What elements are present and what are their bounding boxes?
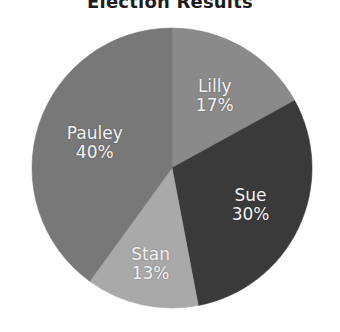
slice-label-stan: Stan 13% [91,245,211,283]
slice-label-sue: Sue 30% [191,186,311,224]
slice-label-name-stan: Stan [91,245,211,264]
slice-label-value-lilly: 17% [155,96,275,115]
slice-label-name-lilly: Lilly [155,77,275,96]
slice-label-name-sue: Sue [191,186,311,205]
slice-label-pauley: Pauley 40% [35,124,155,162]
slice-label-value-sue: 30% [191,205,311,224]
slice-label-value-stan: 13% [91,264,211,283]
slice-label-lilly: Lilly 17% [155,77,275,115]
pie-chart: Election Results Lilly 17% Sue 30% Stan … [0,0,340,332]
slice-label-value-pauley: 40% [35,143,155,162]
slice-label-name-pauley: Pauley [35,124,155,143]
